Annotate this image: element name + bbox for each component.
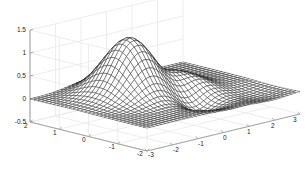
figure-canvas: 1.510.50-0.5 210-1-2 -3-2-10123 <box>0 0 306 171</box>
x-tick-label-4: 1 <box>247 129 251 136</box>
y-tick-label-4: -2 <box>137 151 143 158</box>
z-tick-label-0: 1.5 <box>6 27 26 34</box>
x-tick-label-1: -2 <box>173 147 179 154</box>
y-tick-label-0: 2 <box>24 123 28 130</box>
z-tick-label-4: -0.5 <box>6 119 26 126</box>
y-tick-label-3: -1 <box>109 144 115 151</box>
x-tick-label-5: 2 <box>271 123 275 130</box>
z-tick-label-2: 0.5 <box>6 73 26 80</box>
surface-mesh <box>30 38 300 128</box>
y-tick-label-1: 1 <box>53 130 57 137</box>
y-tick-label-2: 0 <box>82 137 86 144</box>
mesh-plot-svg <box>0 0 306 171</box>
x-tick-label-6: 3 <box>293 117 297 124</box>
z-tick-label-3: 0 <box>6 96 26 103</box>
x-tick-label-3: 0 <box>223 135 227 142</box>
x-tick-label-0: -3 <box>148 152 154 159</box>
z-tick-label-1: 1 <box>6 50 26 57</box>
x-tick-label-2: -1 <box>198 141 204 148</box>
